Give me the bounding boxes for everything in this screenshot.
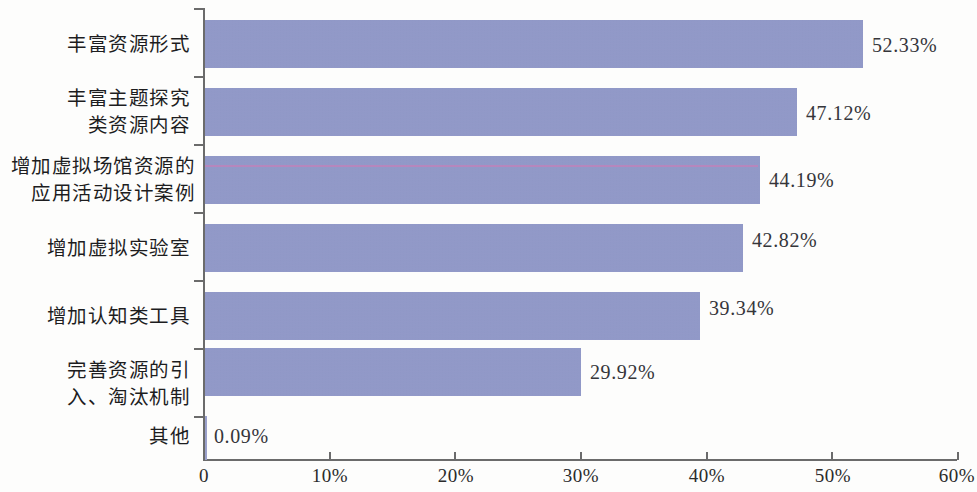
bar-value-label: 47.12% [806,102,871,125]
x-axis-tick [580,452,582,460]
bar [205,88,797,136]
bar [205,20,863,68]
bar [205,416,207,460]
x-axis-tick [329,452,331,460]
y-axis-tick [194,76,203,78]
x-axis-tick [957,452,959,460]
bar [205,292,700,340]
x-axis-tick-label: 40% [689,465,725,487]
y-axis-tick [194,416,203,418]
category-label: 增加认知类工具 [0,303,190,330]
bar-chart: 0 10% 20% 30% 40% 50% 60% 丰富资源形式 丰富主题探究 … [0,0,977,492]
x-axis-tick-label: 60% [939,465,975,487]
category-label: 丰富主题探究 类资源内容 [0,85,190,139]
category-label: 增加虚拟场馆资源的 应用活动设计案例 [0,153,195,207]
x-axis-tick [706,452,708,460]
bar-value-label: 0.09% [214,425,269,448]
category-label: 增加虚拟实验室 [0,235,190,262]
x-axis-tick-label: 10% [312,465,348,487]
bar-value-label: 42.82% [752,229,817,252]
bar-value-label: 39.34% [709,297,774,320]
y-axis-tick [194,348,203,350]
y-axis-tick [194,280,203,282]
x-axis-tick [454,452,456,460]
bar-value-label: 29.92% [590,361,655,384]
y-axis-tick [194,212,203,214]
category-label: 完善资源的引 入、淘汰机制 [0,357,190,411]
plot-area: 0 10% 20% 30% 40% 50% 60% 丰富资源形式 丰富主题探究 … [0,0,977,492]
bar [205,224,743,272]
y-axis-tick [194,8,203,10]
bar [205,348,581,396]
x-axis-tick-label: 20% [438,465,474,487]
x-axis-tick-label: 50% [815,465,851,487]
bar-value-label: 52.33% [872,34,937,57]
x-axis-tick-label: 0 [199,465,209,487]
bar-value-label: 44.19% [769,169,834,192]
category-label: 其他 [0,423,190,450]
x-axis-tick-label: 30% [563,465,599,487]
category-label: 丰富资源形式 [0,31,190,58]
y-axis-tick [194,144,203,146]
x-axis-tick [831,452,833,460]
scan-artifact-line [205,165,758,167]
bar [205,156,760,204]
